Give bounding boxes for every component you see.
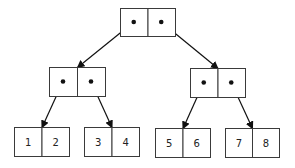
root-node [121, 9, 176, 37]
leaf-node: 56 [156, 129, 211, 158]
pointer-dot-icon [61, 79, 66, 84]
leaf-node: 78 [226, 129, 280, 158]
leaf-value: 5 [166, 138, 172, 149]
leaf-node: 12 [15, 128, 70, 157]
leaf-value: 3 [95, 137, 101, 148]
pointer-dot-icon [201, 80, 206, 85]
leaf-value: 4 [123, 137, 129, 148]
internal-node [191, 69, 246, 98]
internal-node [50, 68, 106, 97]
leaf-value: 8 [263, 138, 269, 149]
leaf-node: 34 [85, 128, 140, 157]
pointer-dot-icon [131, 20, 136, 25]
leaf-value: 7 [236, 138, 242, 149]
leaf-value: 2 [53, 137, 59, 148]
pointer-dot-icon [159, 20, 164, 25]
pointer-dot-icon [229, 80, 234, 85]
leaf-value: 6 [194, 138, 200, 149]
tree-nodes: 12345678 [15, 9, 280, 158]
binary-tree-diagram: 12345678 [0, 0, 295, 168]
pointer-dot-icon [89, 79, 94, 84]
leaf-value: 1 [25, 137, 31, 148]
